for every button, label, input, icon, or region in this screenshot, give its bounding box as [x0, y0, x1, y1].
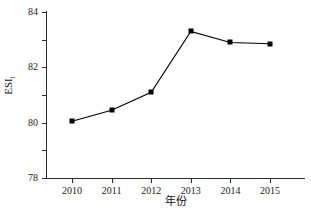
data-point-marker — [109, 108, 114, 113]
x-axis-tick — [270, 179, 271, 183]
x-axis-tick — [151, 179, 152, 183]
data-point-marker — [268, 41, 273, 46]
y-axis-tick: 84 — [42, 12, 46, 13]
series-line — [46, 12, 305, 178]
x-axis-tick-label: 2015 — [260, 186, 280, 196]
y-axis-tick-label: 84 — [28, 7, 38, 17]
plot-area: 72747678808284 — [46, 12, 305, 178]
data-point-marker — [228, 40, 233, 45]
data-point-marker — [149, 90, 154, 95]
y-axis-tick: 82 — [42, 40, 46, 41]
y-axis-tick: 80 — [42, 67, 46, 68]
y-axis-label: ESIj — [3, 61, 14, 111]
x-axis-tick — [72, 179, 73, 183]
x-axis-tick — [112, 179, 113, 183]
y-axis-tick-label: 82 — [28, 62, 38, 72]
y-axis-label-text: ESI — [2, 78, 14, 95]
x-axis-tick — [191, 179, 192, 183]
y-axis-tick: 78 — [42, 95, 46, 96]
x-axis-tick-label: 2011 — [102, 186, 122, 196]
y-axis-label-subscript: j — [8, 76, 16, 78]
x-axis-tick-label: 2010 — [62, 186, 82, 196]
data-point-marker — [70, 119, 75, 124]
y-axis-tick-label: 80 — [28, 118, 38, 128]
data-point-marker — [188, 29, 193, 34]
y-axis-tick: 74 — [42, 150, 46, 151]
y-axis-tick: 76 — [42, 123, 46, 124]
x-axis-tick-label: 2014 — [220, 186, 240, 196]
x-axis-tick-label: 2012 — [141, 186, 161, 196]
chart-container: ESIj 72747678808284 20102011201220132014… — [0, 0, 311, 219]
x-axis-tick — [230, 179, 231, 183]
x-axis-label: 年份 — [46, 196, 305, 207]
y-axis-tick-label: 78 — [28, 173, 38, 183]
